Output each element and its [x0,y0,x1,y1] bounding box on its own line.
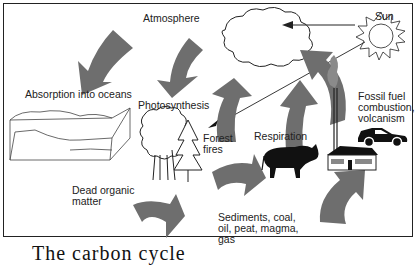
label-sun: Sun [375,10,394,22]
sun-to-cloud-arrow [282,21,355,29]
car-icon [358,128,407,147]
cloud-icon [222,7,313,66]
caption-cut-off: The carbon cycle [32,242,186,265]
label-absorption: Absorption into oceans [25,88,132,100]
arrow-dead-to-sediments [133,194,185,238]
arrow-to-respiration [212,154,266,196]
arrow-sediments-to-fossil [320,170,365,224]
label-atmosphere: Atmosphere [143,12,200,24]
arrow-atmosphere-to-photosynthesis [157,38,203,98]
label-forest-fires-2: fires [203,143,223,155]
label-photosynthesis: Photosynthesis [138,99,209,111]
label-fossil-3: volcanism [358,112,405,124]
cow-icon [262,144,319,178]
forest-fires-arrowhead [208,120,218,128]
label-sediments-3: gas [218,233,235,245]
ocean-block-icon [10,108,130,160]
arrow-fossil-to-atmosphere [300,50,346,125]
label-dead-2: matter [72,195,102,207]
arrow-atmosphere-to-oceans [78,30,133,95]
trees-icon [140,106,202,182]
label-respiration: Respiration [254,130,307,142]
